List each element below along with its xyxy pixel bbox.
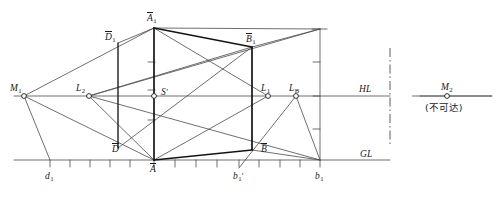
ray-b1-to-scaletop: [252, 29, 320, 47]
label-b-bar: B: [261, 143, 267, 154]
figure-canvas: M1 L2 S' L1 LB M2 (不可达) A1 B1 D1 A B D d…: [0, 0, 502, 207]
point-m2: [445, 94, 450, 99]
diagonal-a1-lower: [154, 28, 320, 29]
label-l2: L2: [76, 84, 85, 94]
point-l2: [87, 94, 92, 99]
label-m1: M1: [10, 84, 22, 94]
label-l1: L1: [261, 84, 270, 94]
diagonal-cross-2: [118, 47, 252, 148]
label-horizon-line: HL: [359, 85, 371, 95]
point-s-prime: [152, 94, 157, 99]
label-a-bar-1: A1: [147, 12, 156, 23]
label-d-bar: D: [112, 143, 119, 154]
point-lb: [294, 94, 299, 99]
ray-l2-to-bbar: [89, 96, 320, 160]
ray-lb-to-b1tick: [296, 96, 320, 160]
label-b1-prime: b1': [233, 172, 243, 182]
ray-m1-to-gl: [24, 96, 50, 160]
ray-upper-left: [118, 28, 154, 43]
label-s-prime: S': [161, 88, 168, 98]
label-a-bar: A: [150, 163, 156, 174]
ground-line-ticks: [50, 160, 320, 167]
label-lb: LB: [289, 84, 299, 94]
label-d-bar-1: D1: [105, 31, 115, 42]
label-d1: d1: [45, 172, 53, 182]
object-edges: [154, 28, 252, 160]
ray-m1-to-abar: [24, 96, 154, 160]
label-m2: M2: [441, 83, 453, 93]
label-b-bar-1: B1: [246, 33, 255, 44]
point-m1: [22, 94, 27, 99]
label-ground-line: GL: [360, 150, 372, 160]
edge-a1-b1-top: [154, 28, 252, 47]
ray-lb-to-gl: [239, 96, 296, 168]
label-b1: b1: [315, 172, 323, 182]
ray-m1-to-a1: [24, 28, 154, 96]
point-l1: [266, 94, 271, 99]
label-unreachable-note: (不可达): [425, 103, 462, 113]
measuring-scale-ticks: [312, 29, 327, 129]
